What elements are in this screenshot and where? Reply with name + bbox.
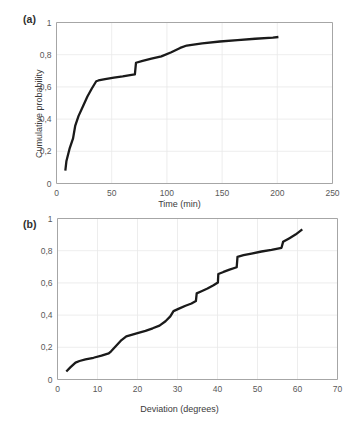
panel-b-plot: 00,20,40,60,81010203040506070: [0, 205, 359, 422]
x-tick-label: 10: [93, 384, 103, 394]
x-tick-label: 50: [253, 384, 263, 394]
y-tick-label: 0,4: [41, 310, 53, 320]
y-tick-label: 0,6: [40, 82, 52, 92]
x-tick-label: 200: [270, 188, 284, 198]
y-tick-label: 0,6: [41, 278, 53, 288]
panel-a-plot: 00,20,40,60,81050100150200250: [0, 0, 359, 211]
y-tick-label: 0: [47, 179, 52, 189]
y-tick-label: 0: [48, 375, 53, 385]
x-tick-label: 0: [55, 384, 60, 394]
x-tick-label: 100: [160, 188, 174, 198]
panel-b: (b) Cumulative probability Deviation (de…: [0, 205, 359, 422]
x-tick-label: 60: [293, 384, 303, 394]
x-tick-label: 20: [133, 384, 143, 394]
series-line: [65, 37, 278, 171]
y-tick-label: 1: [47, 18, 52, 28]
x-tick-label: 50: [107, 188, 117, 198]
x-tick-label: 0: [54, 188, 59, 198]
panel-a: (a) Cumulative probability Time (min) 00…: [0, 0, 359, 211]
y-tick-label: 1: [48, 214, 53, 224]
figure-two-cdf-plots: (a) Cumulative probability Time (min) 00…: [0, 0, 359, 422]
y-tick-label: 0,4: [40, 114, 52, 124]
x-tick-label: 250: [325, 188, 339, 198]
x-tick-label: 40: [213, 384, 223, 394]
y-tick-label: 0,2: [41, 342, 53, 352]
x-tick-label: 70: [333, 384, 343, 394]
x-tick-label: 150: [215, 188, 229, 198]
x-tick-label: 30: [173, 384, 183, 394]
y-tick-label: 0,2: [40, 146, 52, 156]
y-tick-label: 0,8: [41, 246, 53, 256]
y-tick-label: 0,8: [40, 50, 52, 60]
